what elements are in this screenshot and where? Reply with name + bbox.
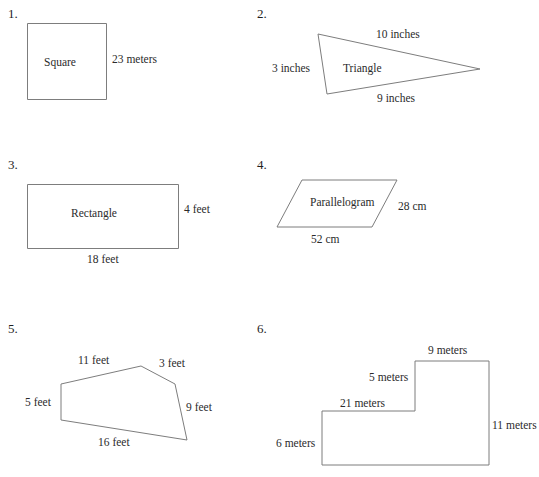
item-number-3: 3. [8, 157, 18, 173]
pentagon-top-left-label: 11 feet [78, 354, 109, 366]
pentagon-left-label: 5 feet [25, 396, 51, 408]
item-number-6: 6. [257, 321, 267, 337]
l-shape-inner-vertical-label: 5 meters [369, 371, 408, 383]
parallelogram-bottom-side-label: 52 cm [311, 233, 339, 245]
triangle-shape-name: Triangle [343, 62, 382, 74]
triangle-figure [316, 32, 484, 98]
parallelogram-right-side-label: 28 cm [398, 200, 426, 212]
item-number-4: 4. [257, 157, 267, 173]
triangle-left-side-label: 3 inches [272, 62, 310, 74]
l-shape-top-right-label: 9 meters [428, 344, 467, 356]
triangle-bottom-side-label: 9 inches [377, 92, 415, 104]
square-shape-name: Square [44, 56, 76, 68]
item-number-2: 2. [257, 6, 267, 22]
rectangle-bottom-side-label: 18 feet [87, 253, 119, 265]
pentagon-bottom-label: 16 feet [98, 436, 130, 448]
pentagon-right-label: 9 feet [186, 401, 212, 413]
l-shape-upper-horizontal-label: 21 meters [340, 397, 385, 409]
worksheet-page: 1. Square 23 meters 2. Triangle 10 inche… [0, 0, 539, 477]
item-number-5: 5. [8, 321, 18, 337]
pentagon-figure [59, 364, 190, 442]
parallelogram-shape-name: Parallelogram [310, 196, 375, 208]
triangle-top-side-label: 10 inches [376, 28, 420, 40]
l-shape-right-label: 11 meters [492, 419, 537, 431]
rectangle-right-side-label: 4 feet [184, 203, 210, 215]
pentagon-top-right-label: 3 feet [159, 357, 185, 369]
l-shape-left-label: 6 meters [276, 437, 315, 449]
square-side-label: 23 meters [112, 53, 157, 65]
item-number-1: 1. [8, 6, 18, 22]
rectangle-shape-name: Rectangle [71, 207, 117, 219]
